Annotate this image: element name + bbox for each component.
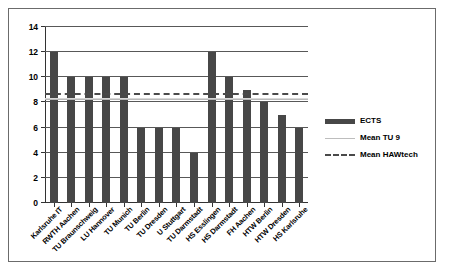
bar: [225, 77, 233, 203]
x-tick-mark: [176, 203, 177, 207]
legend-swatch-mark: [325, 119, 355, 124]
y-tick-label: 8: [33, 97, 38, 107]
bar-slot: [150, 27, 168, 203]
x-tick-mark: [54, 203, 55, 207]
bar-slot: [220, 27, 238, 203]
bar: [67, 77, 75, 203]
reference-line: [45, 93, 308, 95]
bar-slot: [115, 27, 133, 203]
bar: [190, 153, 198, 203]
bar: [50, 52, 58, 203]
y-tick-label: 10: [29, 72, 38, 82]
bar: [208, 52, 216, 203]
bar-slot: [273, 27, 291, 203]
bar: [102, 77, 110, 203]
bar-slot: [63, 27, 81, 203]
bar-slot: [98, 27, 116, 203]
reference-line: [45, 98, 308, 100]
bar-slot: [45, 27, 63, 203]
bar-slot: [255, 27, 273, 203]
legend-swatch-mark: [325, 154, 355, 156]
bars-group: [45, 27, 308, 203]
y-tick-label: 4: [33, 148, 38, 158]
y-tick-label: 12: [29, 47, 38, 57]
bar-swatch: [325, 116, 355, 126]
bar: [137, 128, 145, 203]
bar-slot: [80, 27, 98, 203]
bar: [172, 128, 180, 203]
legend-label: ECTS: [360, 116, 381, 125]
bar: [85, 77, 93, 203]
y-tick-label: 0: [33, 198, 38, 208]
solid-line-swatch: [325, 133, 355, 143]
x-tick-mark: [212, 203, 213, 207]
legend-item: Mean HAWtech: [325, 146, 433, 163]
legend-item: Mean TU 9: [325, 129, 433, 146]
legend-label: Mean HAWtech: [360, 150, 418, 159]
bar: [155, 128, 163, 203]
legend-label: Mean TU 9: [360, 133, 400, 142]
bar: [260, 102, 268, 203]
legend-swatch-mark: [325, 138, 355, 139]
y-tick-label: 14: [29, 22, 38, 32]
bar-slot: [185, 27, 203, 203]
bar: [278, 115, 286, 203]
bar: [120, 77, 128, 203]
bar-slot: [168, 27, 186, 203]
y-tick-label: 2: [33, 173, 38, 183]
x-tick-mark: [247, 203, 248, 207]
bar-slot: [133, 27, 151, 203]
chart-figure: 02468101214 Karlsruhe ITRWTH AachenTU Br…: [8, 8, 436, 262]
bar: [243, 90, 251, 203]
plot-area: 02468101214: [45, 27, 308, 203]
bar-slot: [290, 27, 308, 203]
bar-slot: [203, 27, 221, 203]
dashed-line-swatch: [325, 150, 355, 160]
bar-slot: [238, 27, 256, 203]
legend-item: ECTS: [325, 112, 433, 129]
bar: [295, 128, 303, 203]
chart-legend: ECTSMean TU 9Mean HAWtech: [325, 112, 433, 163]
x-tick-mark: [282, 203, 283, 207]
y-tick-label: 6: [33, 123, 38, 133]
